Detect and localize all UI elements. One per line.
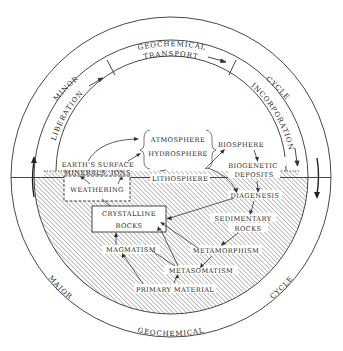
diagenesis-label: DIAGENESIS [231, 192, 280, 200]
metamorphism-label: METAMORPHISM [193, 247, 259, 255]
biosphere-label: BIOSPHERE [218, 141, 264, 149]
svg-text:GEOCHEMICAL: GEOCHEMICAL [137, 326, 205, 338]
metasomatism-label: METASOMATISM [169, 267, 234, 275]
biogenetic-label: BIOGENETIC [228, 162, 278, 170]
cycle-bottom-label: CYCLE [269, 275, 295, 301]
weathering-label: WEATHERING [70, 186, 124, 194]
svg-text:TRANSPORT: TRANSPORT [143, 50, 199, 61]
transport-label: TRANSPORT [143, 50, 199, 61]
minerals-label: MINERALS [64, 169, 106, 177]
hydrosphere-label: HYDROSPHERE [148, 150, 207, 158]
lithosphere-label: LITHOSPHERE [152, 175, 208, 183]
band-divider-right [229, 60, 236, 75]
magmatism-label: MAGMATISM [106, 246, 156, 254]
crystalline-label: CRYSTALLINE [102, 210, 156, 218]
svg-text:MAJOR: MAJOR [47, 274, 74, 301]
ions-label: IONS [111, 169, 131, 177]
sedimentary-rocks-label: ROCKS [235, 225, 262, 233]
sedimentary-label: SEDIMENTARY [215, 215, 272, 223]
geochemical-cycle-diagram: MINOR GEOCHEMICAL CYCLE MAJOR GEOCHEMICA… [0, 0, 343, 351]
atmosphere-label: ATMOSPHERE [150, 136, 205, 144]
svg-text:CYCLE: CYCLE [269, 275, 295, 301]
major-label: MAJOR [47, 274, 74, 301]
earths-surface-label: EARTH'S SURFACE [62, 161, 135, 169]
deposits-label: DEPOSITS [234, 171, 273, 179]
geochemical-bottom-label: GEOCHEMICAL [137, 326, 205, 338]
primary-material-label: PRIMARY MATERIAL [136, 286, 214, 294]
rocks-label: ROCKS [116, 222, 143, 230]
down-arrow-right-icon [317, 158, 319, 195]
